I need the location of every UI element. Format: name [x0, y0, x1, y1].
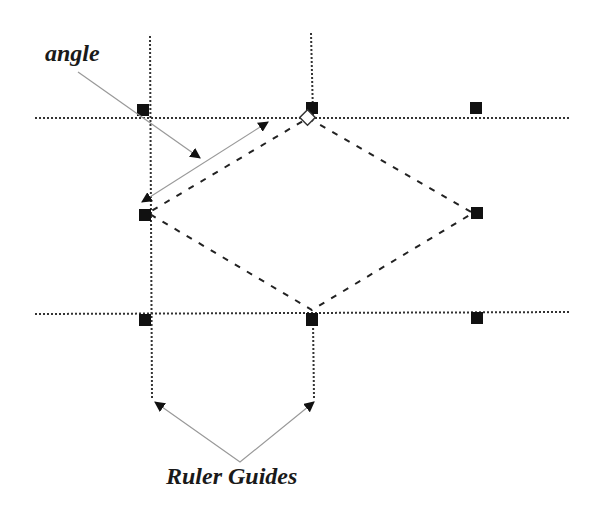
angle-label: angle [45, 40, 100, 67]
diagram-canvas [0, 0, 593, 513]
ruler-guide-horizontal-bottom[interactable] [35, 312, 570, 314]
ruler-guide-vertical-right-lower[interactable] [313, 320, 314, 398]
angle-callout-line [78, 72, 200, 158]
diamond-shape[interactable] [148, 118, 473, 310]
handle-bottom-right[interactable] [471, 312, 483, 324]
ruler-guides-callout-line [155, 402, 314, 462]
handle-bottom-middle[interactable] [306, 313, 318, 326]
handle-middle-left[interactable] [139, 209, 151, 221]
handle-middle-right[interactable] [471, 207, 483, 219]
angle-measure-arrow [142, 122, 268, 202]
handle-top-right[interactable] [470, 102, 482, 114]
handle-bottom-left[interactable] [139, 314, 151, 326]
ruler-guides-label: Ruler Guides [166, 463, 297, 490]
